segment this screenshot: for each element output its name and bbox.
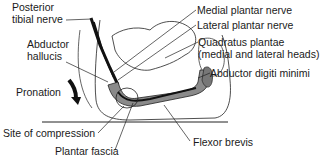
label-quadratus-plantae: Quadratus plantae (medial and lateral he… bbox=[198, 36, 319, 60]
label-line: tibial nerve bbox=[12, 13, 63, 25]
bone-outline bbox=[112, 21, 196, 70]
label-line: (medial and lateral heads) bbox=[198, 48, 319, 60]
label-plantar-fascia: Plantar fascia bbox=[55, 145, 119, 157]
arrow-head bbox=[71, 97, 81, 105]
label-pronation: Pronation bbox=[16, 86, 61, 98]
label-line: Quadratus plantae bbox=[198, 36, 319, 48]
label-lateral-plantar-nerve: Lateral plantar nerve bbox=[197, 19, 293, 31]
label-abductor-digiti-minimi: Abductor digiti minimi bbox=[210, 67, 310, 79]
label-abductor-hallucis: Abductor hallucis bbox=[27, 38, 69, 62]
label-line: Posterior bbox=[12, 1, 63, 13]
label-line: hallucis bbox=[27, 50, 69, 62]
curved-arrow-down-icon bbox=[69, 80, 76, 98]
label-line: Abductor bbox=[27, 38, 69, 50]
label-flexor-brevis: Flexor brevis bbox=[193, 136, 253, 148]
label-site-of-compression: Site of compression bbox=[3, 127, 95, 139]
label-posterior-tibial-nerve: Posterior tibial nerve bbox=[12, 1, 63, 25]
label-medial-plantar-nerve: Medial plantar nerve bbox=[197, 4, 292, 16]
